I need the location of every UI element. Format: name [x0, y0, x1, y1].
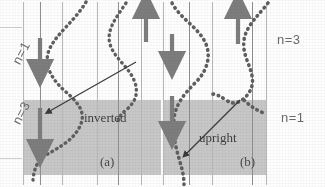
panel-b-left-curve — [172, 3, 208, 185]
panel-b-label: (b) — [240, 154, 255, 170]
panel-a-left-curve — [33, 2, 86, 180]
panel-b-mode-label-n3: n=3 — [277, 32, 301, 47]
panel-b-mode-label-n1: n=1 — [281, 110, 305, 125]
panel-b-upright-pointer — [185, 100, 240, 155]
panel-a-inverted-pointer — [48, 62, 136, 112]
panel-a-annotation-inverted: inverted — [84, 110, 127, 126]
panel-a-label: (a) — [100, 154, 114, 170]
panel-b-right-curve-tail — [244, 100, 264, 113]
curves-layer — [0, 0, 325, 187]
panel-b-annotation-upright: upright — [199, 130, 237, 146]
figure-canvas: inverted upright (a) (b) n=1 n=3 n=3 n=1 — [0, 0, 325, 187]
